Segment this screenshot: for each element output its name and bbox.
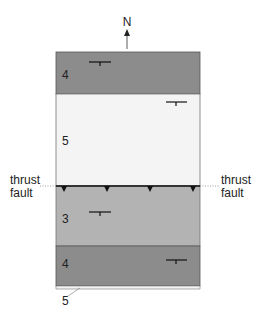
north-label: N xyxy=(123,15,132,29)
unit-5-thin-label: 5 xyxy=(62,294,69,308)
fault-label-left-2: fault xyxy=(10,186,33,200)
unit-4-bottom-label: 4 xyxy=(62,257,69,271)
unit-5-upper-label: 5 xyxy=(62,134,69,148)
unit-4-bottom xyxy=(56,246,200,286)
fault-label-right-1: thrust xyxy=(221,173,252,187)
unit-5-thin xyxy=(56,286,200,289)
unit-5-upper xyxy=(56,94,200,186)
unit-4-top xyxy=(56,52,200,94)
fault-label-left-1: thrust xyxy=(10,173,41,187)
geologic-map: N 4 5 3 4 5 thrust fault thrust fault xyxy=(0,0,263,320)
unit-3-label: 3 xyxy=(62,212,69,226)
unit-4-top-label: 4 xyxy=(62,68,69,82)
fault-label-right-2: fault xyxy=(221,186,244,200)
unit-3 xyxy=(56,186,200,246)
north-arrow-icon xyxy=(124,29,130,49)
